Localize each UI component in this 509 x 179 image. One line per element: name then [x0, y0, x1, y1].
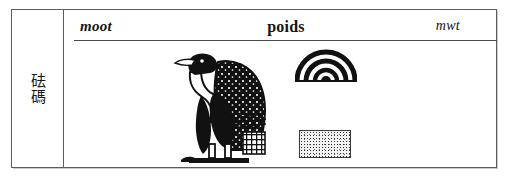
- cjk-label-text: 砝碼: [29, 73, 45, 105]
- nested-arc-hieroglyph-icon: [295, 48, 357, 82]
- label-cell: 砝碼: [12, 10, 64, 167]
- vulture-hieroglyph-icon: [171, 44, 281, 164]
- stippled-rectangle-hieroglyph-icon: [299, 130, 351, 158]
- header-divider-rule: [74, 40, 498, 41]
- header-row: moot poids mwt: [74, 18, 498, 40]
- glyph-plate: [64, 42, 496, 167]
- header-transliteration-right: mwt: [436, 18, 460, 34]
- content-cell: moot poids mwt: [64, 10, 496, 167]
- page-canvas: 砝碼 moot poids mwt: [0, 0, 509, 179]
- dictionary-entry-frame: 砝碼 moot poids mwt: [11, 9, 497, 168]
- header-translation-center: poids: [74, 18, 498, 36]
